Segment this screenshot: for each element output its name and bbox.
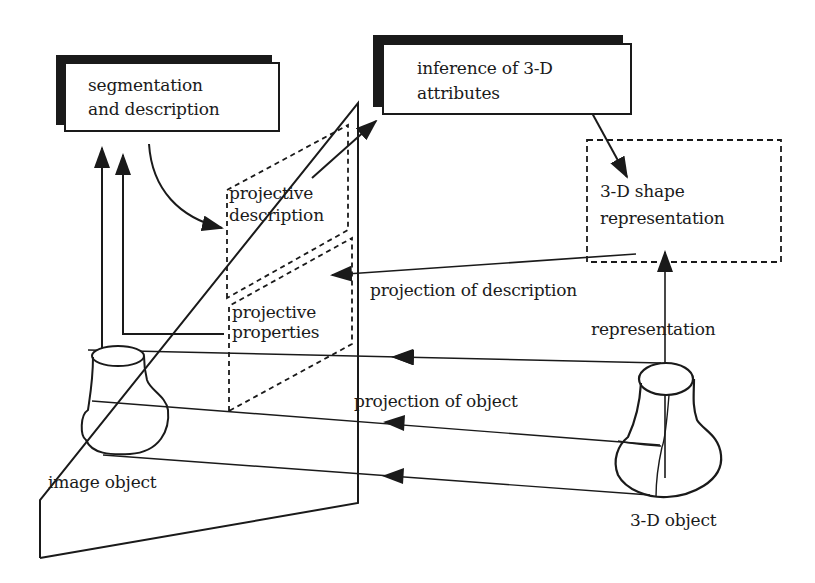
projective-description-line1: projective	[229, 181, 313, 205]
object-3d-shape	[616, 363, 722, 497]
arrowhead-top	[391, 349, 413, 365]
inference-label-line2: attributes	[417, 81, 500, 105]
inference-label-line1: inference of 3-D	[417, 56, 553, 80]
arrow-properties-to-segmentation	[123, 155, 224, 334]
shape-representation-line2: representation	[600, 206, 725, 230]
projective-properties-line2: properties	[232, 320, 319, 344]
diagram-canvas: segmentation and description inference o…	[0, 0, 815, 583]
projective-description-line2: description	[229, 203, 324, 227]
arrow-inference-to-shape	[592, 113, 627, 177]
segmentation-label-line1: segmentation	[88, 73, 203, 97]
arrow-projection-of-description	[332, 254, 636, 275]
arrow-segmentation-to-proj-description	[149, 144, 222, 228]
segmentation-label-line2: and description	[88, 97, 219, 121]
arrowhead-bottom	[382, 468, 404, 484]
shape-representation-line1: 3-D shape	[600, 179, 685, 203]
projection-of-description-label: projection of description	[370, 278, 577, 302]
object-3d-label: 3-D object	[630, 508, 716, 532]
image-object-shape	[82, 346, 169, 454]
projection-line-top	[88, 350, 661, 363]
representation-label: representation	[591, 317, 716, 341]
image-object-label: image object	[48, 470, 156, 494]
projection-of-object-label: projection of object	[354, 389, 518, 413]
arrowhead-middle	[383, 415, 405, 431]
projection-line-bottom	[103, 455, 650, 495]
